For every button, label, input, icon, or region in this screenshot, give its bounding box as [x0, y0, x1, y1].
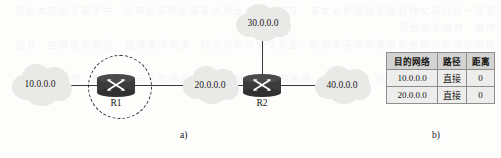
panel-b-caption: b)	[432, 130, 440, 140]
network-cloud-10-label: 10.0.0.0	[25, 79, 56, 89]
network-cloud-20: 20.0.0.0	[179, 63, 241, 107]
network-cloud-30-label: 30.0.0.0	[248, 18, 279, 28]
router-r2-label: R2	[243, 98, 281, 108]
router-r1[interactable]: R1	[97, 74, 135, 97]
figure-canvas: 这是一页扫描文档背面透出的浅淡文字 它在图像中呈现为非常淡的灰色痕迹 并不属于图…	[0, 0, 501, 158]
network-cloud-40-label: 40.0.0.0	[327, 80, 358, 90]
network-cloud-30: 30.0.0.0	[232, 2, 294, 44]
routing-table-body: 10.0.0.0 直接 0 20.0.0.0 直接 0	[387, 70, 495, 104]
router-r1-label: R1	[97, 98, 135, 108]
network-cloud-20-label: 20.0.0.0	[195, 80, 226, 90]
cell-path: 直接	[438, 87, 467, 104]
cell-distance: 0	[467, 70, 495, 87]
network-cloud-40: 40.0.0.0	[311, 63, 373, 107]
routing-table-panel-b: 目的网络 路径 距离 10.0.0.0 直接 0 20.0.0.0 直接 0	[386, 52, 495, 104]
router-r2[interactable]: R2	[243, 74, 281, 97]
router-arrows-icon	[97, 74, 135, 97]
panel-a-caption: a)	[180, 130, 187, 140]
column-header-path: 路径	[438, 53, 467, 70]
column-header-distance: 距离	[467, 53, 495, 70]
table-row: 20.0.0.0 直接 0	[387, 87, 495, 104]
cell-distance: 0	[467, 87, 495, 104]
routing-table-head: 目的网络 路径 距离	[387, 53, 495, 70]
table-row: 10.0.0.0 直接 0	[387, 70, 495, 87]
cell-path: 直接	[438, 70, 467, 87]
router-arrows-icon	[243, 74, 281, 97]
routing-table-header-row: 目的网络 路径 距离	[387, 53, 495, 70]
cell-destination-network: 20.0.0.0	[387, 87, 438, 104]
network-cloud-10: 10.0.0.0	[6, 60, 74, 108]
cell-destination-network: 10.0.0.0	[387, 70, 438, 87]
column-header-destination-network: 目的网络	[387, 53, 438, 70]
